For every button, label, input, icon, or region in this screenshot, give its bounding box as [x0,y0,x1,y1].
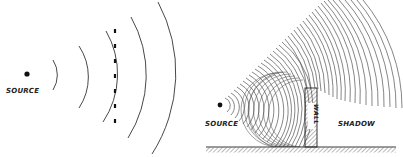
source-label-left: SOURCE [6,87,39,95]
left-panel: SOURCE [6,2,176,154]
wall: WALL [305,88,320,147]
diffraction-diagram: SOURCE SOURCE [0,0,403,157]
ground [206,147,396,153]
right-panel: SOURCE [205,0,402,153]
source-dot-right [218,103,223,108]
shadow-label: SHADOW [338,120,375,128]
source-dot-left [24,71,29,76]
wall-label: WALL [313,104,320,125]
source-label-right: SOURCE [205,120,238,128]
